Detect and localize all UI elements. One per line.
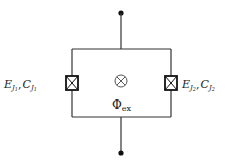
flux-label: Φex (112, 98, 132, 113)
squid-circuit-diagram: Φex EJ1,CJ1 EJ2,CJ2 (0, 0, 240, 164)
josephson-junction-right-icon (165, 76, 177, 90)
junction-right-label: EJ2,CJ2 (181, 78, 215, 92)
bottom-terminal-node (118, 150, 123, 155)
flux-into-page-icon (115, 75, 127, 87)
josephson-junction-left-icon (66, 76, 78, 90)
junction-left-label: EJ1,CJ1 (3, 78, 37, 92)
